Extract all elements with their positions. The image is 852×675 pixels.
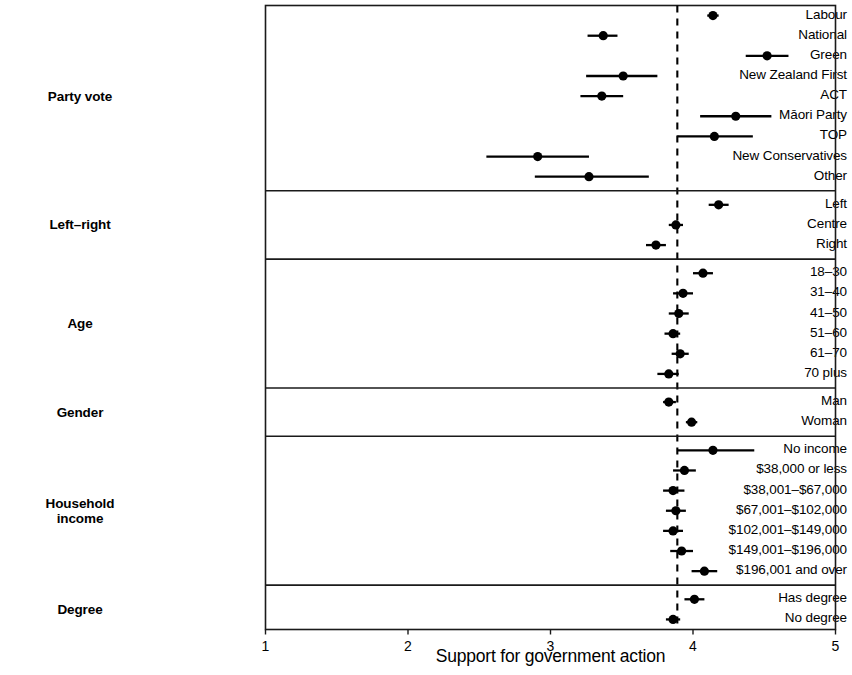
data-point xyxy=(731,112,740,121)
data-point xyxy=(533,152,542,161)
data-point xyxy=(668,526,677,535)
data-point xyxy=(700,567,709,576)
data-point xyxy=(690,595,699,604)
data-point xyxy=(664,369,673,378)
data-point xyxy=(698,269,707,278)
data-point xyxy=(677,546,686,555)
data-point xyxy=(714,200,723,209)
data-point xyxy=(584,172,593,181)
data-point xyxy=(664,397,673,406)
data-point xyxy=(668,486,677,495)
data-point xyxy=(678,289,687,298)
data-point xyxy=(597,92,606,101)
data-point xyxy=(619,71,628,80)
data-point xyxy=(674,309,683,318)
data-point xyxy=(763,51,772,60)
data-point xyxy=(671,220,680,229)
data-point xyxy=(680,466,689,475)
data-point xyxy=(668,615,677,624)
data-point xyxy=(671,506,680,515)
data-point xyxy=(708,11,717,20)
data-point xyxy=(668,329,677,338)
data-point xyxy=(651,240,660,249)
data-point xyxy=(687,418,696,427)
plot-frame xyxy=(266,6,836,630)
data-point xyxy=(710,132,719,141)
x-axis-title: Support for government action xyxy=(266,646,836,667)
data-point xyxy=(599,31,608,40)
data-point xyxy=(676,349,685,358)
data-point xyxy=(708,446,717,455)
